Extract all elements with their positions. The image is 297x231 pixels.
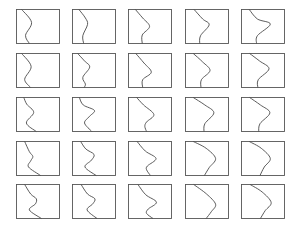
panel-r1-c3	[129, 10, 172, 44]
panel-curve	[249, 10, 270, 44]
panel-r2-c1	[17, 54, 60, 88]
panel-frame	[129, 54, 172, 88]
panel-frame	[129, 185, 172, 219]
small-multiples-grid	[0, 0, 297, 231]
panel-frame	[242, 142, 285, 176]
panel-r3-c3	[129, 98, 172, 132]
panel-r4-c4	[186, 142, 229, 176]
panel-curve	[138, 185, 157, 219]
panel-r5-c1	[17, 185, 60, 219]
panel-curve	[193, 54, 210, 88]
panel-frame	[17, 98, 60, 132]
panel-frame	[129, 98, 172, 132]
panel-r4-c3	[129, 142, 172, 176]
panel-frame	[73, 54, 116, 88]
panel-curve	[25, 142, 41, 176]
panel-frame	[186, 185, 229, 219]
figure-canvas	[0, 0, 297, 231]
panel-r2-c3	[129, 54, 172, 88]
panel-frame	[242, 98, 285, 132]
panel-frame	[17, 185, 60, 219]
panel-r3-c1	[17, 98, 60, 132]
panel-curve	[250, 185, 271, 219]
panel-curve	[81, 142, 96, 176]
panel-curve	[249, 142, 270, 176]
panel-r2-c2	[73, 54, 116, 88]
panel-curve	[78, 54, 90, 88]
panel-r5-c2	[73, 185, 116, 219]
panel-curve	[79, 10, 88, 44]
panel-r5-c3	[129, 185, 172, 219]
panel-curve	[79, 98, 94, 132]
panel-curve	[250, 98, 270, 132]
panel-frame	[242, 54, 285, 88]
panel-frame	[186, 98, 229, 132]
panel-curve	[135, 10, 149, 44]
panel-r2-c5	[242, 54, 285, 88]
panel-frame	[186, 10, 229, 44]
panel-curve	[22, 10, 32, 44]
panel-frame	[73, 142, 116, 176]
panel-curve	[137, 98, 154, 132]
panel-curve	[193, 142, 215, 176]
panel-r4-c5	[242, 142, 285, 176]
panel-curve	[137, 142, 156, 176]
panel-frame	[17, 54, 60, 88]
panel-r1-c2	[73, 10, 116, 44]
panel-curve	[22, 54, 31, 88]
panel-curve	[81, 185, 97, 219]
panel-curve	[250, 54, 269, 88]
panel-r3-c4	[186, 98, 229, 132]
panel-r4-c2	[73, 142, 116, 176]
panel-curve	[194, 185, 216, 219]
panel-curve	[25, 185, 42, 219]
panel-r1-c1	[17, 10, 60, 44]
panel-r4-c1	[17, 142, 60, 176]
panel-frame	[242, 10, 285, 44]
panel-r1-c5	[242, 10, 285, 44]
panel-r2-c4	[186, 54, 229, 88]
panel-frame	[129, 142, 172, 176]
panel-curve	[193, 98, 214, 132]
panel-curve	[136, 54, 151, 88]
panel-curve	[194, 10, 209, 44]
panel-frame	[17, 10, 60, 44]
panel-r5-c4	[186, 185, 229, 219]
panel-curve	[24, 98, 36, 132]
panel-r3-c2	[73, 98, 116, 132]
panel-frame	[17, 142, 60, 176]
panel-r5-c5	[242, 185, 285, 219]
panel-r1-c4	[186, 10, 229, 44]
panel-r3-c5	[242, 98, 285, 132]
panel-frame	[186, 54, 229, 88]
panel-frame	[73, 10, 116, 44]
panel-frame	[73, 98, 116, 132]
